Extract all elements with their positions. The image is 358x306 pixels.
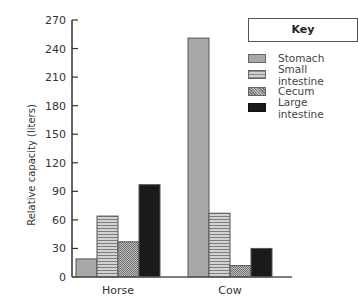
y-tick-label: 60 [52,214,66,227]
bar-horse-large-intestine [139,185,160,277]
y-axis: 0306090120150180210240270 [45,14,78,284]
bars [76,38,272,277]
bar-cow-large-intestine [251,248,272,277]
cecum-swatch-icon [248,87,266,96]
y-tick-label: 0 [59,271,66,284]
x-category-label: Horse [102,284,134,297]
y-axis-label: Relative capacity (liters) [26,104,37,226]
bar-cow-cecum [230,266,251,277]
small-intestine-swatch-icon [248,70,266,79]
stomach-swatch-icon [248,54,266,63]
legend: Stomach Small intestine Cecum Large inte… [248,50,356,116]
y-tick-label: 240 [45,43,66,56]
bar-horse-small-intestine [97,216,118,277]
y-tick-label: 180 [45,100,66,113]
y-tick-label: 90 [52,185,66,198]
y-tick-label: 120 [45,157,66,170]
x-axis: HorseCow [72,277,292,297]
x-category-label: Cow [218,284,241,297]
legend-title: Key [248,18,358,42]
legend-item-large-intestine: Large intestine [248,100,356,117]
y-tick-label: 270 [45,14,66,27]
bar-cow-small-intestine [209,213,230,277]
bar-horse-cecum [118,242,139,277]
y-tick-label: 30 [52,242,66,255]
y-tick-label: 210 [45,71,66,84]
bar-cow-stomach [188,38,209,277]
y-tick-label: 150 [45,128,66,141]
large-intestine-swatch-icon [248,103,266,112]
legend-item-small-intestine: Small intestine [248,67,356,84]
bar-horse-stomach [76,259,97,277]
